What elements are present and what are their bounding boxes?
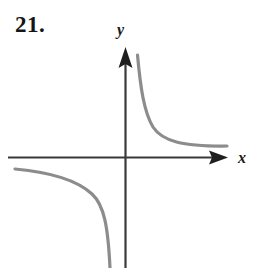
curve-branch-quadrant-three — [15, 169, 110, 268]
x-axis-label: x — [237, 149, 246, 166]
y-axis-label: y — [115, 21, 125, 39]
figure-container: 21. y x — [0, 0, 269, 268]
curve-branch-quadrant-one — [138, 55, 228, 146]
hyperbola-graph: y x — [0, 0, 269, 268]
